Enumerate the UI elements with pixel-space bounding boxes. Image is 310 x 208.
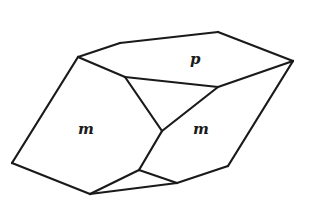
face-label-m-left: m (78, 120, 94, 138)
crystal-diagram: p m m (0, 0, 310, 208)
edge-KL (177, 166, 228, 183)
edge-FG (162, 87, 218, 131)
edge-AH (12, 57, 78, 163)
edge-AE (78, 57, 125, 77)
edge-CD (218, 32, 293, 61)
edge-JK (139, 170, 177, 183)
edge-LD (228, 61, 293, 166)
edge-HI (12, 163, 90, 194)
crystal-edges (12, 32, 293, 194)
edge-GJ (139, 131, 162, 170)
face-label-p: p (190, 50, 201, 68)
edge-FD (218, 61, 293, 87)
edge-EG (125, 77, 162, 131)
edge-AB (78, 43, 120, 57)
face-label-m-right: m (193, 120, 209, 138)
edge-EF (125, 77, 218, 87)
edge-BC (120, 32, 218, 43)
